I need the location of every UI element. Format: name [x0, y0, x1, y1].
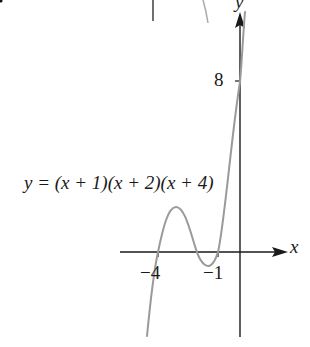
x-tick-label-neg1: −1	[203, 262, 223, 284]
equation-label: y = (x + 1)(x + 2)(x + 4)	[24, 172, 213, 194]
y-tick-label-8: 8	[214, 69, 224, 91]
x-tick-label-neg4: −4	[140, 262, 160, 284]
y-axis-label: y	[235, 0, 243, 13]
equation-text: y = (x + 1)(x + 2)(x + 4)	[24, 172, 213, 193]
x-axis-label: x	[290, 236, 298, 258]
fragment-dot	[0, 0, 3, 3]
fragment-curve	[203, 0, 208, 23]
